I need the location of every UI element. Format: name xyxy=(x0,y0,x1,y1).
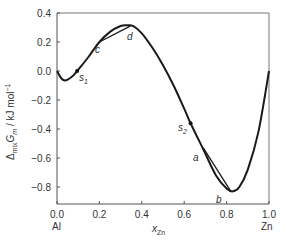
y-axis-label: ΔmixGm / kJ mol−1 xyxy=(4,83,18,160)
gibbs-curve xyxy=(57,25,269,191)
x-axis-label: xZn xyxy=(151,223,165,236)
label-s1: s1 xyxy=(79,72,88,85)
y-tick-label: 0.4 xyxy=(37,8,51,19)
y-tick-label: −0.2 xyxy=(31,95,51,106)
y-tick-label: −0.4 xyxy=(31,124,51,135)
x-tick-label: 0.4 xyxy=(135,209,149,220)
x-tick-label: 0.0 xyxy=(50,209,64,220)
gibbs-energy-chart: 0.40.20.0−0.2−0.4−0.6−0.8 0.00.20.40.60.… xyxy=(0,0,285,249)
x-tick-label: 0.8 xyxy=(220,209,234,220)
x-tick-label: 0.6 xyxy=(177,209,191,220)
x-end-right-label: Zn xyxy=(261,221,273,232)
y-ticks: 0.40.20.0−0.2−0.4−0.6−0.8 xyxy=(31,8,60,193)
marker-s2 xyxy=(189,121,193,125)
label-d: d xyxy=(127,31,133,42)
tangent-line-ab xyxy=(203,148,231,192)
plot-frame xyxy=(57,13,269,204)
y-tick-label: 0.2 xyxy=(37,37,51,48)
label-c: c xyxy=(95,44,100,55)
label-s2: s2 xyxy=(178,122,187,135)
y-tick-label: −0.8 xyxy=(31,182,51,193)
point-markers xyxy=(75,69,192,125)
label-b: b xyxy=(216,194,222,205)
x-tick-label: 0.2 xyxy=(92,209,106,220)
x-tick-label: 1.0 xyxy=(262,209,276,220)
y-tick-label: 0.0 xyxy=(37,66,51,77)
x-end-left-label: Al xyxy=(52,221,61,232)
y-tick-label: −0.6 xyxy=(31,153,51,164)
label-a: a xyxy=(193,152,199,163)
